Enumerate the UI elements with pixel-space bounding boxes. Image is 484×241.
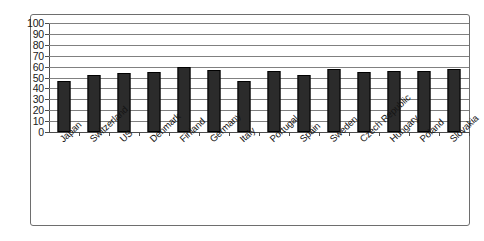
x-axis-tick — [409, 132, 410, 136]
x-axis-tick — [259, 132, 260, 136]
x-axis-tick — [349, 132, 350, 136]
y-axis-tick-label: 40 — [33, 83, 44, 94]
bar[interactable] — [118, 73, 131, 132]
bar[interactable] — [298, 75, 311, 132]
x-axis-tick — [199, 132, 200, 136]
x-axis-tick — [169, 132, 170, 136]
x-axis-tick — [79, 132, 80, 136]
y-axis-tick-label: 60 — [33, 61, 44, 72]
bar-slot — [319, 23, 349, 132]
y-axis-tick — [45, 132, 49, 133]
y-axis-tick-label: 70 — [33, 50, 44, 61]
y-axis-tick-label: 10 — [33, 116, 44, 127]
bar[interactable] — [148, 72, 161, 132]
x-axis-tick — [319, 132, 320, 136]
x-axis-tick — [229, 132, 230, 136]
bar-slot — [49, 23, 79, 132]
bar[interactable] — [178, 67, 191, 132]
bar-slot — [139, 23, 169, 132]
bar[interactable] — [268, 71, 281, 132]
bar[interactable] — [418, 71, 431, 132]
x-axis-tick — [439, 132, 440, 136]
y-axis-tick-label: 20 — [33, 105, 44, 116]
y-axis-tick-label: 80 — [33, 40, 44, 51]
x-axis-tick — [139, 132, 140, 136]
chart-frame: 0102030405060708090100 JapanSwitzerlandU… — [30, 14, 470, 226]
bar[interactable] — [448, 69, 461, 132]
x-axis-tick — [289, 132, 290, 136]
y-axis-tick-label: 100 — [27, 18, 44, 29]
x-axis-tick — [109, 132, 110, 136]
bar[interactable] — [358, 72, 371, 132]
bar-slot — [79, 23, 109, 132]
bar[interactable] — [208, 70, 221, 132]
x-axis-tick — [469, 132, 470, 136]
y-axis-tick-label: 0 — [38, 127, 44, 138]
bar[interactable] — [88, 75, 101, 132]
y-axis-tick-label: 50 — [33, 72, 44, 83]
bar-slot — [199, 23, 229, 132]
x-axis-tick — [379, 132, 380, 136]
y-axis-tick-label: 90 — [33, 29, 44, 40]
bar-slot — [439, 23, 469, 132]
y-axis-tick-label: 30 — [33, 94, 44, 105]
bar[interactable] — [328, 69, 341, 132]
bar-slot — [259, 23, 289, 132]
